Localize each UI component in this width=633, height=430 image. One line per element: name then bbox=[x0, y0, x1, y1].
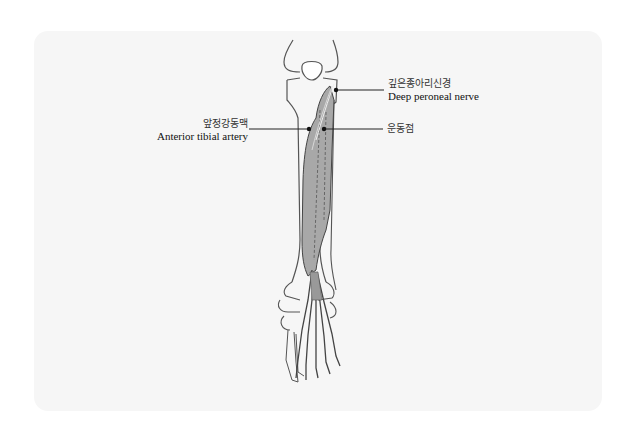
dot-anterior-tibial-artery bbox=[307, 127, 311, 131]
label-anterior-tibial-artery: 앞정강동맥 Anterior tibial artery bbox=[157, 118, 248, 142]
label-deep-peroneal-nerve: 깊은종아리신경 Deep peroneal nerve bbox=[388, 78, 479, 102]
dot-deep-peroneal-nerve bbox=[334, 88, 338, 92]
label-deep-peroneal-nerve-ko: 깊은종아리신경 bbox=[388, 78, 479, 90]
label-motor-point-ko: 운동점 bbox=[387, 123, 414, 135]
label-anterior-tibial-artery-ko: 앞정강동맥 bbox=[157, 118, 248, 130]
label-deep-peroneal-nerve-en: Deep peroneal nerve bbox=[388, 90, 479, 102]
dot-motor-point bbox=[322, 127, 326, 131]
patella-outline bbox=[302, 62, 322, 81]
leg-anatomy-illustration bbox=[0, 0, 633, 430]
label-anterior-tibial-artery-en: Anterior tibial artery bbox=[157, 130, 248, 142]
tibialis-anterior-muscle bbox=[302, 86, 334, 276]
label-motor-point: 운동점 bbox=[387, 123, 414, 135]
